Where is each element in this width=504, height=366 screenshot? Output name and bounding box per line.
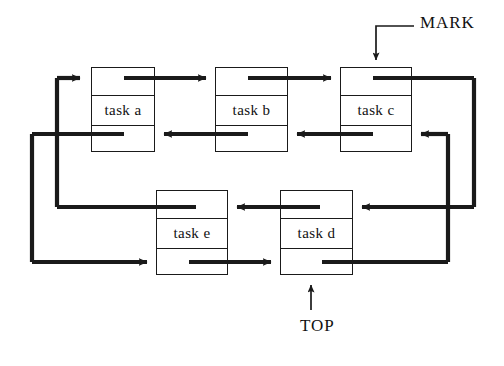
task-label-slot: task c xyxy=(341,96,411,126)
task-label-slot: task e xyxy=(157,219,227,249)
annotation-mark: MARK xyxy=(420,13,475,33)
task-label: task d xyxy=(298,226,336,241)
diagram-canvas: task a task b task c task e task d MARK … xyxy=(0,0,504,366)
link-wires xyxy=(0,0,504,366)
annotation-top: TOP xyxy=(300,316,335,336)
task-label: task a xyxy=(105,103,142,118)
task-label-slot: task a xyxy=(92,96,154,126)
task-node-d[interactable]: task d xyxy=(280,190,353,275)
task-label-slot: task b xyxy=(216,96,287,126)
task-node-c[interactable]: task c xyxy=(340,67,412,152)
task-node-a[interactable]: task a xyxy=(91,67,155,152)
task-label: task c xyxy=(358,103,395,118)
forward-pointer-slot xyxy=(281,191,352,219)
task-node-e[interactable]: task e xyxy=(156,190,228,275)
task-node-b[interactable]: task b xyxy=(215,67,288,152)
forward-pointer-slot xyxy=(157,191,227,219)
backward-pointer-slot xyxy=(157,249,227,276)
backward-pointer-slot xyxy=(92,126,154,153)
leader-mark xyxy=(376,26,414,60)
backward-pointer-slot xyxy=(281,249,352,276)
task-label-slot: task d xyxy=(281,219,352,249)
backward-pointer-slot xyxy=(216,126,287,153)
forward-pointer-slot xyxy=(216,68,287,96)
backward-pointer-slot xyxy=(341,126,411,153)
forward-pointer-slot xyxy=(92,68,154,96)
task-label: task e xyxy=(174,226,211,241)
task-label: task b xyxy=(233,103,271,118)
forward-pointer-slot xyxy=(341,68,411,96)
